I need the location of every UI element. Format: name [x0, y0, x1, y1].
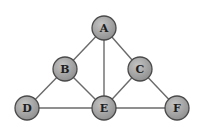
- nodes-group: ABCDEF: [15, 16, 189, 120]
- node-a: A: [92, 16, 116, 40]
- node-label: D: [22, 102, 32, 115]
- node-label: E: [100, 102, 108, 115]
- node-f: F: [165, 96, 189, 120]
- node-d: D: [15, 96, 39, 120]
- node-b: B: [53, 57, 77, 81]
- node-c: C: [128, 57, 152, 81]
- graph-diagram: ABCDEF: [0, 0, 201, 127]
- node-label: B: [60, 63, 69, 76]
- node-label: A: [99, 22, 109, 35]
- node-label: C: [136, 63, 145, 76]
- node-e: E: [92, 96, 116, 120]
- node-label: F: [173, 102, 181, 115]
